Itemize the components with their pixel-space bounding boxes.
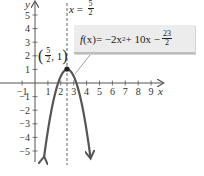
axis-of-symmetry-label: x = 52 [69, 0, 94, 17]
y-tick-label: 2 [25, 50, 30, 61]
function-formula-box: f(x) = −2x2 + 10x −232 [74, 25, 195, 54]
y-axis-label: y [24, 0, 30, 10]
y-tick-label: 4 [25, 23, 30, 34]
x-tick-label: 8 [136, 86, 141, 97]
y-tick-label: −4 [19, 132, 30, 143]
x-tick-label: 6 [110, 86, 115, 97]
x-tick-label: 9 [149, 86, 154, 97]
y-tick-label: −3 [19, 118, 30, 129]
x-tick-label: 4 [84, 86, 89, 97]
y-tick-label: 5 [25, 10, 30, 21]
x-tick-label: 5 [97, 86, 102, 97]
x-axis-label: x [157, 85, 163, 97]
x-tick-label: 7 [123, 86, 128, 97]
vertex-point [64, 66, 69, 71]
x-tick-label: 3 [71, 86, 76, 97]
axis-eq-equals: = [77, 3, 83, 15]
x-tick-label: 1 [45, 86, 50, 97]
y-tick-label: −2 [19, 105, 30, 116]
y-tick-label: −1 [19, 91, 30, 102]
y-tick-label: 3 [25, 37, 30, 48]
formula-leader-line [75, 55, 90, 74]
y-tick-label: 1 [25, 64, 30, 75]
vertex-label: (52, 1) [38, 47, 68, 64]
x-tick-label: 2 [58, 86, 63, 97]
y-tick-label: −5 [19, 146, 30, 157]
axis-eq-fraction: 52 [88, 0, 94, 17]
axis-eq-var: x [69, 3, 74, 15]
formula-fraction: 232 [162, 30, 172, 47]
